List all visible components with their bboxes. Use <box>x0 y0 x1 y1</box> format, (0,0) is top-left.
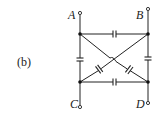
terminal-label-d: D <box>136 98 145 110</box>
capacitor-top <box>80 31 148 38</box>
terminal-c <box>78 105 81 108</box>
node-top-right <box>146 32 150 36</box>
capacitor-left <box>77 34 84 82</box>
terminal-label-c: C <box>70 98 78 110</box>
node-bottom-left <box>78 80 82 84</box>
node-top-left <box>78 32 82 36</box>
node-bottom-right <box>146 80 150 84</box>
capacitor-right <box>145 34 152 82</box>
terminal-a <box>78 11 81 14</box>
terminal-b <box>146 7 149 10</box>
figure-label: (b) <box>17 56 31 68</box>
capacitor-bottom <box>80 79 148 86</box>
terminal-d <box>146 101 149 104</box>
terminal-label-a: A <box>68 9 75 21</box>
terminal-label-b: B <box>136 9 143 21</box>
